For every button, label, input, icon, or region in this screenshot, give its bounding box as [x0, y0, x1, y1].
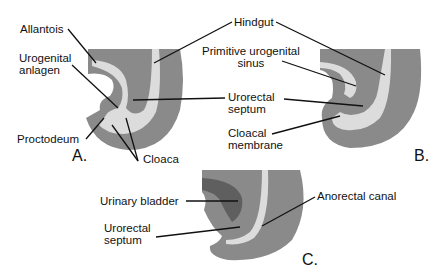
label-urorectal-septum-c: Urorectal septum — [104, 222, 151, 246]
label-cloacal-membrane: Cloacal membrane — [228, 127, 283, 151]
panel-letter-a: A. — [72, 147, 87, 165]
panel-b-drawing — [320, 49, 421, 148]
label-urinary-bladder: Urinary bladder — [100, 195, 179, 207]
label-urogenital-anlagen: Urogenital anlagen — [19, 52, 71, 76]
panel-letter-c: C. — [302, 251, 318, 269]
label-proctodeum: Proctodeum — [17, 133, 79, 145]
label-allantois: Allantois — [20, 23, 63, 35]
label-urorectal-septum: Urorectal septum — [228, 91, 275, 115]
panel-b-tissue — [320, 49, 421, 148]
label-cloaca: Cloaca — [143, 153, 179, 165]
label-primitive-urogenital-sinus: Primitive urogenital sinus — [202, 45, 300, 69]
panel-letter-b: B. — [414, 147, 429, 165]
panel-c-drawing — [202, 170, 304, 260]
leader-allantois — [68, 29, 96, 63]
label-hindgut: Hindgut — [234, 16, 274, 28]
label-anorectal-canal: Anorectal canal — [317, 190, 396, 202]
